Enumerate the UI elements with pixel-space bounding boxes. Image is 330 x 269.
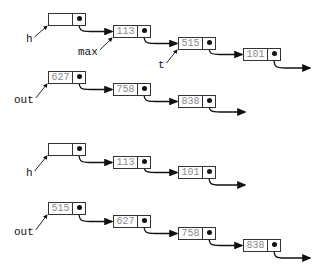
node-next-pointer: [203, 167, 215, 178]
node-value: 113: [114, 157, 138, 168]
node-value: 838: [179, 96, 203, 107]
node-next-pointer: [268, 240, 280, 251]
node-next-pointer: [138, 216, 150, 227]
node-value: 515: [49, 203, 73, 214]
pointer-dot-icon: [142, 159, 147, 164]
list-node: 838: [243, 239, 281, 252]
list-node: 627: [48, 71, 86, 84]
pointer-arrow: [35, 26, 47, 37]
node-value: [49, 14, 73, 25]
node-next-pointer: [138, 26, 150, 37]
variable-label-max: max: [78, 46, 98, 58]
node-next-pointer: [73, 72, 85, 83]
list-node: 113: [113, 25, 151, 38]
list-node: [48, 13, 86, 26]
node-value: 101: [179, 167, 203, 178]
node-next-pointer: [203, 96, 215, 107]
list-node: 627: [113, 215, 151, 228]
list-node: 758: [178, 227, 216, 240]
node-value: [49, 144, 73, 155]
linked-list-diagram: 113515101627758838hmaxtout11310151562775…: [0, 0, 330, 269]
node-value: 758: [179, 228, 203, 239]
pointer-dot-icon: [77, 74, 82, 79]
node-next-pointer: [73, 203, 85, 214]
list-node: 101: [243, 48, 281, 61]
node-next-pointer: [138, 84, 150, 95]
list-node: [48, 143, 86, 156]
list-node: 758: [113, 83, 151, 96]
pointer-dot-icon: [272, 51, 277, 56]
node-value: 758: [114, 84, 138, 95]
pointer-dot-icon: [207, 98, 212, 103]
pointer-dot-icon: [207, 40, 212, 45]
list-node: 515: [178, 37, 216, 50]
node-value: 101: [244, 49, 268, 60]
node-value: 515: [179, 38, 203, 49]
arrows-layer: [0, 0, 330, 269]
pointer-dot-icon: [207, 230, 212, 235]
variable-label-h: h: [26, 167, 33, 179]
node-next-pointer: [203, 228, 215, 239]
pointer-arrow: [100, 38, 112, 50]
node-next-pointer: [73, 14, 85, 25]
variable-label-h: h: [26, 33, 33, 45]
node-value: 838: [244, 240, 268, 251]
pointer-dot-icon: [142, 218, 147, 223]
pointer-dot-icon: [77, 205, 82, 210]
pointer-dot-icon: [207, 169, 212, 174]
list-node: 838: [178, 95, 216, 108]
list-node: 113: [113, 156, 151, 169]
list-node: 101: [178, 166, 216, 179]
variable-label-t: t: [158, 59, 165, 71]
variable-label-out: out: [14, 226, 34, 238]
variable-label-out: out: [14, 94, 34, 106]
node-next-pointer: [138, 157, 150, 168]
pointer-dot-icon: [142, 86, 147, 91]
node-value: 113: [114, 26, 138, 37]
node-next-pointer: [73, 144, 85, 155]
node-value: 627: [114, 216, 138, 227]
pointer-dot-icon: [272, 242, 277, 247]
node-next-pointer: [203, 38, 215, 49]
pointer-arrow: [36, 84, 47, 98]
node-next-pointer: [268, 49, 280, 60]
node-value: 627: [49, 72, 73, 83]
pointer-arrow: [35, 156, 47, 171]
pointer-dot-icon: [142, 28, 147, 33]
pointer-arrow: [36, 215, 47, 230]
list-node: 515: [48, 202, 86, 215]
pointer-dot-icon: [77, 146, 82, 151]
pointer-arrow: [167, 50, 177, 63]
pointer-dot-icon: [77, 16, 82, 21]
